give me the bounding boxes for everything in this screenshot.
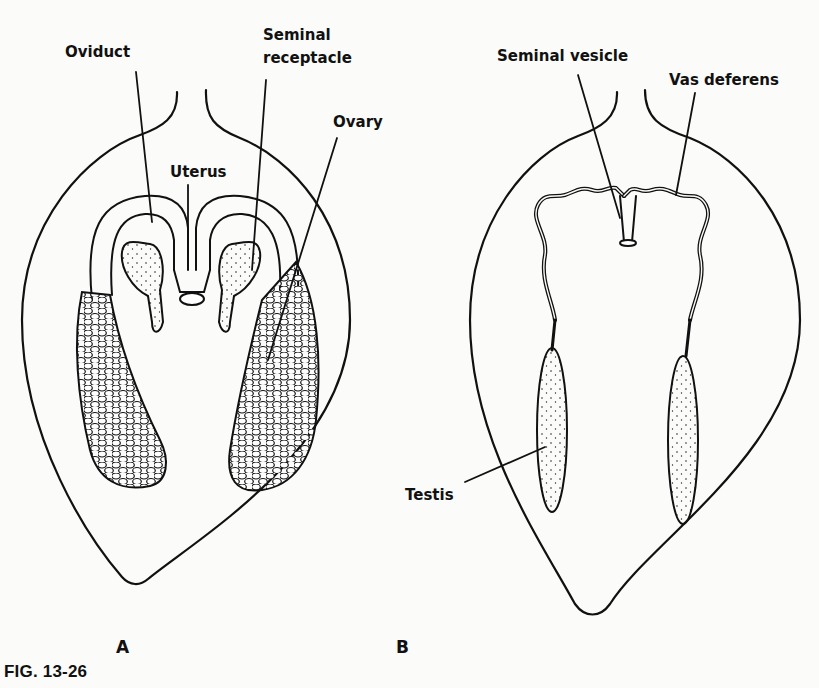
figure-caption: FIG. 13-26: [4, 662, 87, 682]
diagram-canvas: [0, 0, 819, 688]
panel-letter-b: B: [396, 637, 409, 657]
label-seminal-vesicle: Seminal vesicle: [497, 46, 628, 66]
label-ovary: Ovary: [333, 112, 383, 132]
ovary-right: [229, 262, 318, 491]
testis-right: [668, 356, 698, 524]
figure: Oviduct Seminal receptacle Ovary Uterus …: [0, 0, 819, 688]
label-testis: Testis: [405, 485, 454, 505]
label-seminal-receptacle-line1: Seminal: [263, 25, 331, 45]
panel-letter-a: A: [116, 637, 129, 657]
label-seminal-receptacle-line2: receptacle: [263, 48, 352, 68]
label-uterus: Uterus: [170, 162, 227, 182]
testis-left: [537, 348, 567, 512]
label-vas-deferens: Vas deferens: [669, 70, 779, 90]
panel-b-male: [465, 75, 800, 615]
label-oviduct: Oviduct: [65, 42, 130, 62]
panel-a-female: [22, 72, 350, 585]
